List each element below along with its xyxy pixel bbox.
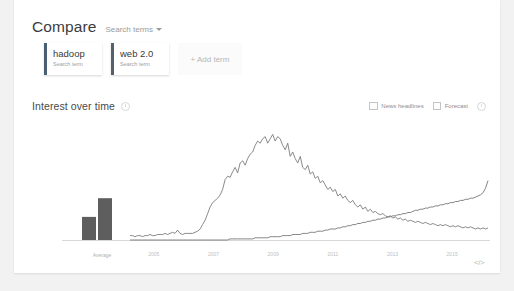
chevron-down-icon <box>156 28 162 31</box>
google-trends-compare-page: Compare Search terms hadoop Search term … <box>0 0 514 291</box>
term-card-web20[interactable]: web 2.0 Search term <box>111 43 169 75</box>
chart-options: News headlines Forecast <box>369 102 486 111</box>
checkbox-box[interactable] <box>433 102 442 111</box>
term-name: web 2.0 <box>120 48 169 59</box>
interest-over-time-header: Interest over time News headlines Foreca… <box>32 100 486 112</box>
checkbox-label: News headlines <box>381 103 423 109</box>
interest-over-time-chart <box>30 122 500 252</box>
term-cards: hadoop Search term web 2.0 Search term +… <box>44 43 242 75</box>
x-axis-tick-label: 2005 <box>148 251 159 257</box>
x-axis-tick-label: 2013 <box>387 251 398 257</box>
checkbox-box[interactable] <box>369 102 378 111</box>
term-subtitle: Search term <box>120 60 169 69</box>
term-name: hadoop <box>53 48 102 59</box>
term-card-hadoop[interactable]: hadoop Search term <box>44 43 102 75</box>
average-bar <box>98 198 112 240</box>
info-icon[interactable] <box>121 102 130 111</box>
page-title: Compare <box>32 18 96 36</box>
compare-header: Compare Search terms <box>32 18 162 36</box>
checkbox-news-headlines[interactable]: News headlines <box>369 102 423 111</box>
x-axis-tick-labels: 200520072009201120132015 <box>14 251 500 261</box>
search-terms-dropdown[interactable]: Search terms <box>105 25 162 34</box>
x-axis-tick-label: 2011 <box>327 251 338 257</box>
series-line <box>130 134 488 236</box>
x-axis-tick-label: 2015 <box>447 251 458 257</box>
trends-card: Compare Search terms hadoop Search term … <box>14 0 500 273</box>
checkbox-label: Forecast <box>445 103 468 109</box>
embed-code-icon[interactable]: </> <box>474 258 484 267</box>
series-line <box>130 181 488 240</box>
x-axis-tick-label: 2007 <box>208 251 219 257</box>
term-subtitle: Search term <box>53 60 102 69</box>
info-icon[interactable] <box>477 102 486 111</box>
add-term-button[interactable]: + Add term <box>178 43 242 75</box>
section-title: Interest over time <box>32 100 115 112</box>
chart-svg <box>30 122 500 252</box>
checkbox-forecast[interactable]: Forecast <box>433 102 468 111</box>
x-axis-tick-label: 2009 <box>268 251 279 257</box>
search-terms-dropdown-label: Search terms <box>105 25 153 34</box>
average-bar <box>82 217 96 240</box>
